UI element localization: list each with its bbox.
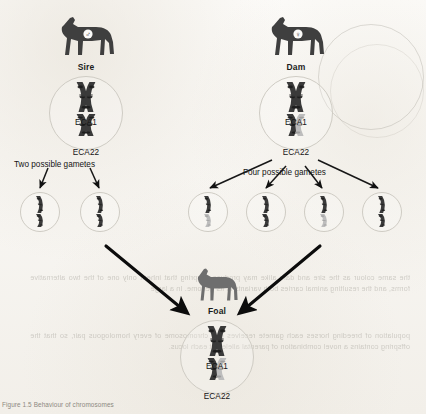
dam-horse-icon: ♀ — [262, 14, 330, 62]
dam-gamete-2-chromosomes — [246, 192, 286, 232]
dam-gamete-4-chromosomes — [362, 192, 402, 232]
dam-gamete-4-eca1 — [362, 196, 402, 213]
foal-eca1-pair — [180, 326, 254, 356]
chromosome-pair — [286, 82, 306, 112]
foal-horse-icon — [190, 266, 244, 306]
sire-eca22-label: ECA22 — [49, 148, 123, 157]
chromosome-pair — [76, 82, 96, 112]
dam-gamete-caption: Four possible gametes — [243, 168, 326, 177]
sire-gamete-2-eca1 — [80, 196, 120, 213]
sire-gamete-caption: Two possible gametes — [14, 160, 95, 169]
figure-caption: Figure 1.5 Behaviour of chromosomes — [2, 401, 114, 408]
foal-chromosome-group — [180, 320, 254, 394]
dam-gamete-1-eca1 — [188, 196, 228, 213]
sire-gamete-1-eca22 — [20, 214, 60, 227]
dam-eca1-right — [295, 82, 304, 112]
sire-gamete-1-eca1 — [20, 196, 60, 213]
foal-eca1-label: ECA1 — [180, 362, 254, 371]
sire-meiosis-arrows — [40, 168, 99, 188]
dam-gamete-1-chromosomes — [188, 192, 228, 232]
dam-gamete-to-foal-arrow — [241, 246, 320, 312]
sire-horse-icon: ♂ — [52, 14, 120, 62]
sire-gamete-to-foal-arrow — [106, 246, 186, 312]
sire-gamete-2-chromosomes — [80, 192, 120, 232]
dam-gamete-1-eca22 — [188, 214, 228, 227]
dam-gamete-3-eca1 — [304, 196, 344, 213]
sire-sex-symbol: ♂ — [85, 30, 91, 39]
sire-label: Sire — [52, 62, 120, 72]
dam-chromosome-group — [259, 76, 333, 150]
dam-gamete-2-eca1 — [246, 196, 286, 213]
sire-eca1-label: ECA1 — [49, 118, 123, 127]
foal-label: Foal — [190, 306, 244, 316]
dam-eca1-label: ECA1 — [259, 118, 333, 127]
dam-gamete-3-chromosomes — [304, 192, 344, 232]
foal-eca1-right — [216, 326, 225, 356]
sire-eca1-pair — [49, 82, 123, 112]
dam-eca1-pair — [259, 82, 333, 112]
sire-eca1-right — [85, 82, 94, 112]
chromosome-pair — [207, 326, 227, 356]
dam-gamete-2-eca22 — [246, 214, 286, 227]
dam-label: Dam — [262, 62, 330, 72]
dam-eca22-label: ECA22 — [259, 148, 333, 157]
dam-gamete-3-eca22 — [304, 214, 344, 227]
dam-sex-symbol: ♀ — [295, 30, 301, 39]
sire-gamete-1-chromosomes — [20, 192, 60, 232]
dam-gamete-4-eca22 — [362, 214, 402, 227]
sire-gamete-2-eca22 — [80, 214, 120, 227]
sire-chromosome-group — [49, 76, 123, 150]
foal-eca22-label: ECA22 — [180, 392, 254, 401]
inheritance-diagram: ♂ Sire ECA1 ECA22 Two possible gametes ♀ — [0, 0, 426, 414]
